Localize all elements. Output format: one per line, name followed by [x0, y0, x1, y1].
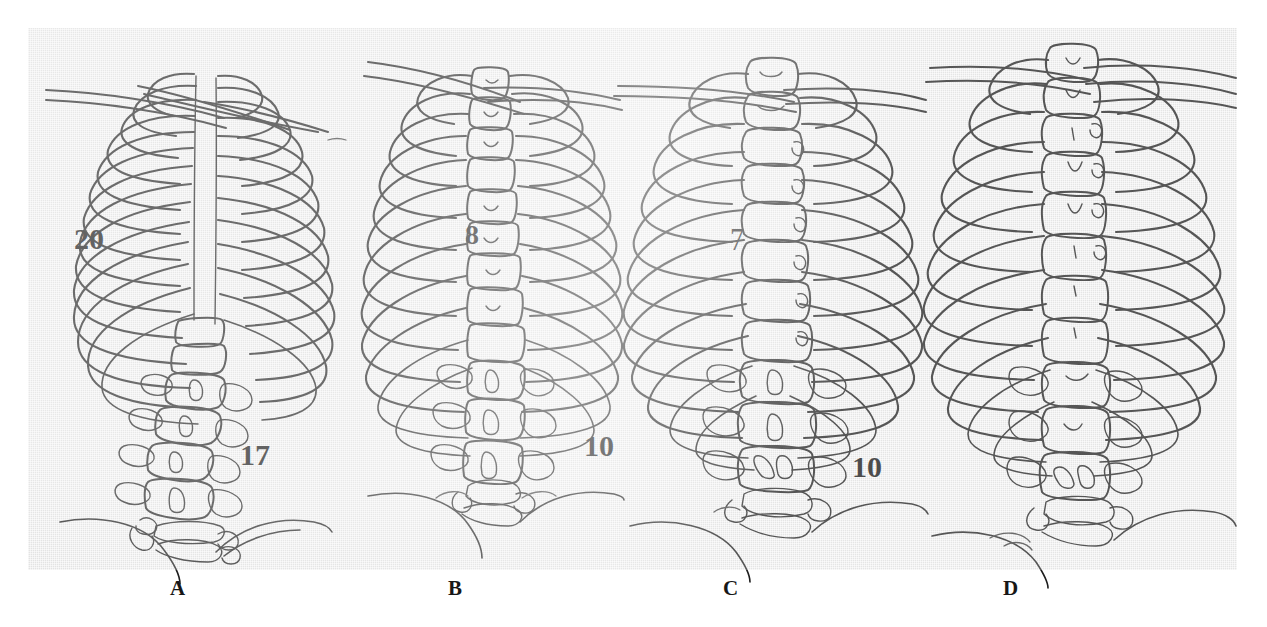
lumbar-vertebrae-c	[703, 360, 848, 492]
panel-caption-a: A	[170, 576, 186, 601]
lumbar-vertebrae-a	[115, 373, 252, 520]
right-ribs-a	[218, 76, 334, 420]
right-ribs-c	[790, 73, 922, 470]
clavicle-lines-d	[926, 66, 1236, 108]
panel-b-rib-count-label: 8	[465, 221, 479, 249]
halftone-plate-background: 20 17 8 10 7 10	[28, 28, 1237, 570]
lumbar-vertebrae-d	[1007, 362, 1142, 500]
panel-a-rib-count-label: 20	[74, 224, 104, 254]
panel-c-drawing	[608, 28, 928, 570]
right-ribs-d	[1092, 59, 1224, 476]
left-ribs-b	[362, 75, 472, 456]
panel-d-drawing	[904, 28, 1237, 570]
panel-b	[324, 28, 624, 570]
panel-caption-b: B	[448, 576, 463, 601]
thoracolumbar-vertebrae-a	[171, 318, 226, 375]
panel-c	[608, 28, 928, 570]
panel-b-drawing	[324, 28, 624, 570]
panel-b-vertebra-level-label: 10	[584, 431, 614, 461]
panel-a-drawing	[28, 28, 338, 570]
panel-caption-d: D	[1003, 576, 1019, 601]
panel-d	[904, 28, 1237, 570]
clavicle-lines-a	[46, 86, 328, 132]
panel-caption-c: C	[723, 576, 739, 601]
lumbar-vertebrae-b	[431, 361, 556, 484]
clavicle-lines-c	[614, 86, 926, 112]
caption-row: A B C D	[0, 576, 1267, 620]
panel-c-vertebra-level-label: 10	[852, 452, 882, 482]
left-ribs-c	[624, 73, 756, 470]
sacrum-pelvis-b	[368, 480, 624, 558]
panel-a-vertebra-level-label: 17	[240, 440, 270, 470]
panel-a	[28, 28, 338, 570]
sacrum-pelvis-c	[630, 488, 928, 582]
sacrum-pelvis-d	[932, 496, 1236, 588]
figure-root: 20 17 8 10 7 10 A B C D	[0, 0, 1267, 627]
sacrum-pelvis-a	[60, 518, 332, 584]
right-ribs-b	[510, 75, 622, 456]
panel-c-rib-count-label: 7	[730, 224, 744, 255]
